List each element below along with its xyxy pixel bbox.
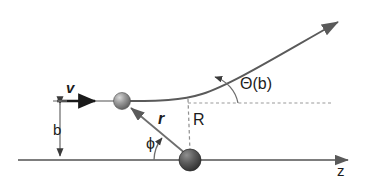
r-vector-label: r	[158, 111, 164, 127]
phi-angle-arc	[154, 138, 162, 160]
velocity-label: v	[66, 80, 74, 95]
particle-trajectory	[124, 22, 338, 101]
R-distance-label: R	[193, 112, 205, 128]
R-dashed-line	[188, 99, 190, 152]
phi-angle-label: ϕ	[146, 136, 155, 152]
scattering-diagram: v b r R ϕ Θ(b) z	[0, 0, 374, 187]
scattering-center	[179, 149, 201, 171]
moving-particle	[114, 93, 131, 110]
z-axis-label: z	[337, 163, 345, 178]
diagram-canvas	[0, 0, 374, 187]
impact-parameter-label: b	[53, 122, 61, 137]
theta-angle-label: Θ(b)	[240, 76, 272, 92]
